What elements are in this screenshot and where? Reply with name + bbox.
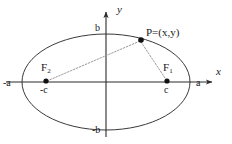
focal-radius-f2-to-p [47,41,140,81]
ellipse-diagram-canvas [0,0,232,144]
focus-right-value-label: c [164,85,168,95]
point-p-dot [138,37,144,43]
semi-major-right-label: a [196,78,200,88]
focus-right-label: F1 [163,62,173,73]
focus-left-dot [43,78,48,83]
semi-major-left-label: -a [3,78,11,88]
x-axis-label: x [216,66,221,77]
point-p-label: P=(x,y) [146,27,179,38]
focus-right-dot [164,78,169,83]
focus-left-label: F2 [41,62,51,73]
semi-minor-bottom-label: -b [92,125,100,135]
focus-left-value-label: -c [40,85,48,95]
focus-right-subscript: 1 [169,67,173,75]
semi-minor-top-label: b [95,23,100,33]
focus-left-subscript: 2 [47,67,51,75]
ellipse-diagram: y x b -b -a a P=(x,y) F2 F1 -c c [0,0,232,144]
y-axis-label: y [117,4,122,15]
